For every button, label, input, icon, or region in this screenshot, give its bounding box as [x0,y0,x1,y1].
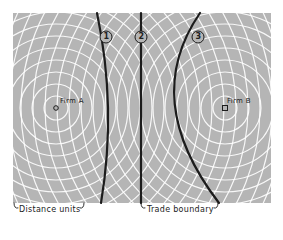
boundary-2-number: 2 [139,32,145,41]
distance-units-right-bracket-icon [80,203,84,208]
firm-a-marker-icon [54,106,59,111]
boundary-3-number: 3 [196,32,202,41]
trade-boundary-label: Trade boundary [147,205,214,214]
firm-b-marker-icon [223,106,228,111]
trade-boundary-right-bracket-icon [214,203,218,208]
distance-units-label: Distance units [19,205,80,214]
distance-units-left-bracket-icon [14,203,18,208]
firm-a-label: Firm A [60,97,84,105]
boundary-1-number: 1 [104,32,110,41]
firm-b-label: Firm B [227,97,251,105]
